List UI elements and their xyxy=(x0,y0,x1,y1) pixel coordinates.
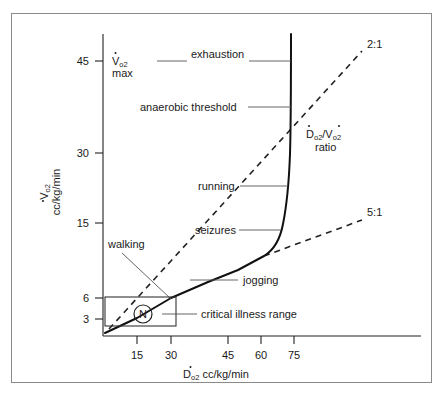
x-tick-label-45: 45 xyxy=(222,349,234,361)
annotation-running: running xyxy=(198,180,235,192)
y-axis-ticks: 45 30 15 6 3 xyxy=(77,55,103,325)
annotation-exhaustion-text: exhaustion xyxy=(191,48,244,60)
ratio-label-5-to-1: 5:1 xyxy=(367,206,382,218)
x-tick-label-60: 60 xyxy=(255,349,267,361)
annotation-seizures: seizures xyxy=(195,224,236,236)
y-tick-label-30: 30 xyxy=(77,147,89,159)
annotation-critical-illness-range: critical illness range xyxy=(201,308,297,320)
ratio-caption-D: D xyxy=(306,128,314,140)
ratio-caption-overdot-D-icon xyxy=(308,125,310,127)
leader-line-walking xyxy=(122,253,171,299)
figure-frame: 45 30 15 6 3 15 30 45 60 75 Do2 cc/kg/mi… xyxy=(11,13,432,383)
x-tick-label-30: 30 xyxy=(165,349,177,361)
y-tick-label-45: 45 xyxy=(77,55,89,67)
axes-group xyxy=(103,34,421,336)
annotation-anaerobic-threshold: anaerobic threshold xyxy=(140,101,237,113)
y-tick-label-3: 3 xyxy=(83,313,89,325)
x-axis-title-overdot-icon xyxy=(190,366,192,368)
x-tick-label-15: 15 xyxy=(131,349,143,361)
vo2max-label-line2: max xyxy=(112,67,133,79)
y-tick-label-15: 15 xyxy=(77,217,89,229)
ratio-caption-sub-22: 2 xyxy=(337,133,341,142)
y-axis-title-overdot-icon xyxy=(42,200,44,202)
x-axis-title: Do2 cc/kg/min xyxy=(183,368,249,382)
ratio-caption-overdot-V-icon xyxy=(338,125,340,127)
ratio-caption-line2: ratio xyxy=(315,141,336,153)
annotation-jogging: jogging xyxy=(242,274,278,286)
x-axis-title-units: cc/kg/min xyxy=(199,368,249,380)
x-tick-label-75: 75 xyxy=(288,349,300,361)
y-tick-label-6: 6 xyxy=(83,292,89,304)
y-axis-title-line2: cc/kg/min xyxy=(50,169,62,215)
oxygen-delivery-consumption-chart: 45 30 15 6 3 15 30 45 60 75 Do2 cc/kg/mi… xyxy=(12,14,431,382)
ratio-label-2-to-1: 2:1 xyxy=(367,38,382,50)
x-axis-title-dotted-D: D xyxy=(183,368,191,380)
vo2max-overdot-icon xyxy=(115,52,117,54)
annotation-walking: walking xyxy=(107,238,145,250)
x-axis-ticks: 15 30 45 60 75 xyxy=(131,336,300,361)
ratio-line-2-to-1 xyxy=(109,51,362,329)
y-axis-title-group: Vo2 cc/kg/min xyxy=(38,169,62,215)
ratio-caption-line1: Do2/Vo2 xyxy=(306,128,341,142)
normal-point-label: N xyxy=(139,308,147,320)
